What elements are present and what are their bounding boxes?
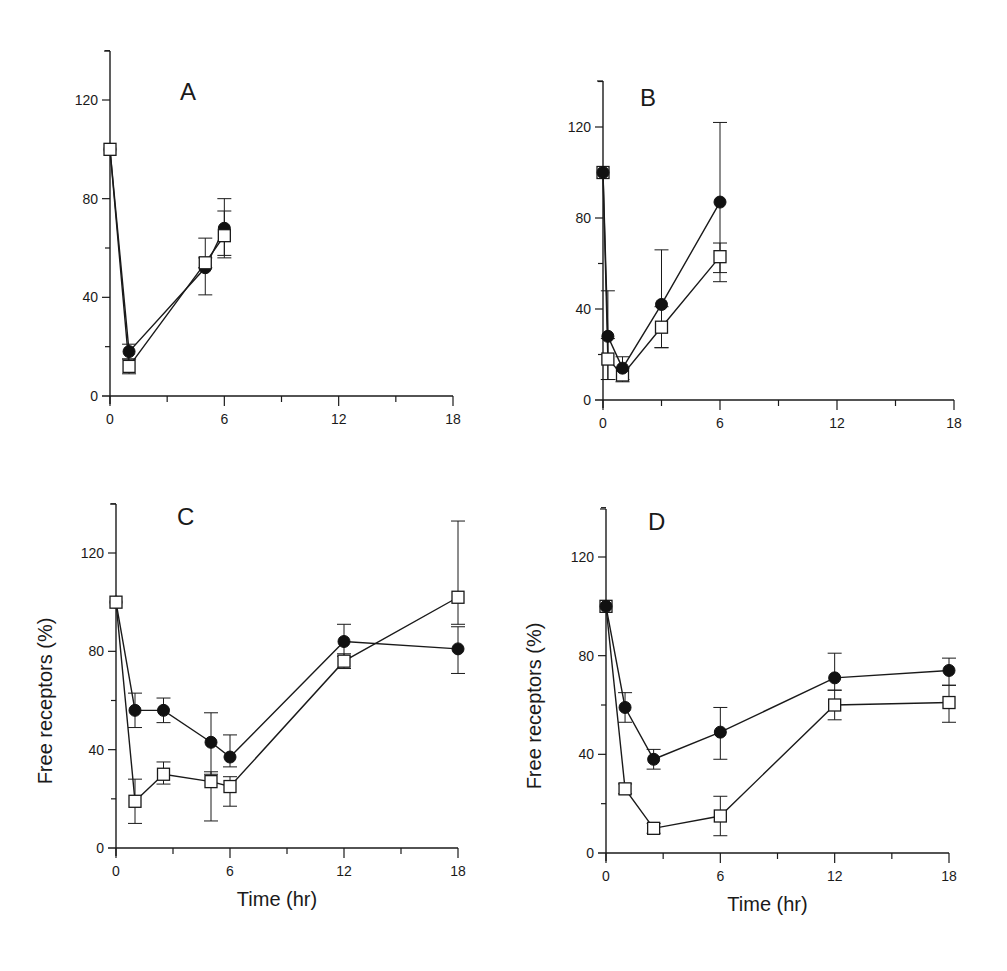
y-tick-label: 80 — [575, 210, 591, 226]
y-tick-label: 80 — [578, 648, 594, 664]
data-point-filled-circle — [123, 346, 135, 358]
data-point-open-square — [129, 795, 141, 807]
data-point-open-square — [158, 768, 170, 780]
panel-c: 04080120061218CFree receptors (%)Time (h… — [34, 503, 466, 910]
y-tick-label: 0 — [583, 392, 591, 408]
data-point-filled-circle — [829, 672, 841, 684]
panel-b: 04080120061218B — [568, 81, 962, 431]
data-point-filled-circle — [714, 726, 726, 738]
data-point-open-square — [943, 697, 955, 709]
x-tick-label: 6 — [220, 411, 228, 427]
x-tick-label: 6 — [716, 415, 724, 431]
series-line-filled-circle — [606, 606, 949, 759]
y-tick-label: 80 — [82, 191, 98, 207]
y-tick-label: 120 — [75, 92, 99, 108]
data-point-open-square — [714, 251, 726, 263]
panel-letter: D — [648, 508, 665, 535]
y-tick-label: 0 — [96, 840, 104, 856]
y-tick-label: 120 — [81, 545, 105, 561]
data-point-open-square — [602, 353, 614, 365]
y-tick-label: 0 — [90, 388, 98, 404]
panel-letter: C — [177, 503, 194, 530]
y-tick-label: 40 — [575, 301, 591, 317]
data-point-open-square — [123, 360, 135, 372]
series-line-filled-circle — [110, 149, 224, 351]
data-point-filled-circle — [158, 704, 170, 716]
data-point-open-square — [714, 810, 726, 822]
x-tick-label: 18 — [445, 411, 461, 427]
data-point-open-square — [648, 822, 660, 834]
x-tick-label: 18 — [450, 863, 466, 879]
x-tick-label: 6 — [716, 868, 724, 884]
x-tick-label: 12 — [336, 863, 352, 879]
x-tick-label: 6 — [226, 863, 234, 879]
data-point-filled-circle — [338, 636, 350, 648]
x-tick-label: 0 — [599, 415, 607, 431]
data-point-filled-circle — [452, 643, 464, 655]
y-tick-label: 40 — [88, 742, 104, 758]
data-point-open-square — [619, 783, 631, 795]
y-tick-label: 80 — [88, 643, 104, 659]
data-point-filled-circle — [600, 600, 612, 612]
y-axis-label: Free receptors (%) — [34, 618, 56, 785]
data-point-open-square — [224, 781, 236, 793]
series-line-open-square — [606, 606, 949, 828]
y-tick-label: 120 — [568, 119, 592, 135]
data-point-open-square — [452, 591, 464, 603]
data-point-filled-circle — [943, 664, 955, 676]
data-point-filled-circle — [224, 751, 236, 763]
data-point-filled-circle — [619, 701, 631, 713]
y-axis-label: Free receptors (%) — [523, 623, 545, 790]
data-point-open-square — [218, 230, 230, 242]
data-point-filled-circle — [617, 362, 629, 374]
data-point-filled-circle — [602, 330, 614, 342]
x-tick-label: 12 — [331, 411, 347, 427]
data-point-filled-circle — [714, 196, 726, 208]
x-tick-label: 18 — [941, 868, 957, 884]
data-point-filled-circle — [597, 167, 609, 179]
x-tick-label: 18 — [946, 415, 962, 431]
x-tick-label: 0 — [106, 411, 114, 427]
data-point-open-square — [656, 321, 668, 333]
x-tick-label: 0 — [602, 868, 610, 884]
y-tick-label: 40 — [82, 289, 98, 305]
y-tick-label: 40 — [578, 746, 594, 762]
data-point-filled-circle — [205, 736, 217, 748]
y-tick-label: 120 — [571, 549, 595, 565]
panel-letter: B — [640, 84, 656, 111]
data-point-open-square — [205, 776, 217, 788]
x-tick-label: 0 — [112, 863, 120, 879]
y-tick-label: 0 — [586, 845, 594, 861]
data-point-open-square — [199, 257, 211, 269]
data-point-open-square — [829, 699, 841, 711]
panel-a: 04080120061218A — [75, 51, 461, 427]
data-point-open-square — [338, 655, 350, 667]
x-axis-label: Time (hr) — [727, 893, 807, 915]
figure: 04080120061218A 04080120061218B 04080120… — [0, 0, 1007, 971]
panel-letter: A — [180, 78, 196, 105]
x-axis-label: Time (hr) — [237, 888, 317, 910]
data-point-filled-circle — [656, 298, 668, 310]
data-point-filled-circle — [129, 704, 141, 716]
x-tick-label: 12 — [829, 415, 845, 431]
panel-d: 04080120061218DFree receptors (%)Time (h… — [523, 508, 957, 915]
data-point-open-square — [110, 596, 122, 608]
x-tick-label: 12 — [827, 868, 843, 884]
data-point-open-square — [104, 143, 116, 155]
data-point-filled-circle — [648, 753, 660, 765]
